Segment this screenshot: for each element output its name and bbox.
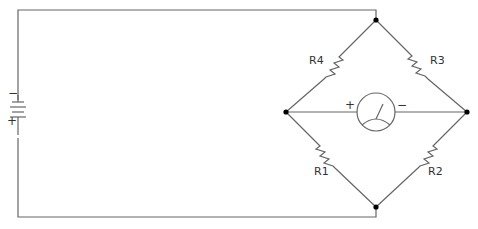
meter-pos-sign: + — [345, 98, 355, 112]
node-bottom — [373, 204, 378, 209]
node-top — [373, 17, 378, 22]
node-right — [464, 109, 469, 114]
resistor-r1-icon — [286, 112, 376, 207]
galvanometer-icon — [357, 93, 395, 131]
label-r4: R4 — [309, 54, 324, 67]
circuit-diagram: − + + − R4 R3 R1 R2 — [0, 0, 478, 229]
battery-pos-sign: + — [7, 114, 17, 128]
node-left — [283, 109, 288, 114]
meter-neg-sign: − — [397, 98, 407, 112]
label-r3: R3 — [430, 54, 445, 67]
battery-neg-sign: − — [8, 86, 18, 100]
resistor-r2-icon — [376, 112, 467, 207]
label-r2: R2 — [428, 165, 443, 178]
label-r1: R1 — [314, 165, 329, 178]
